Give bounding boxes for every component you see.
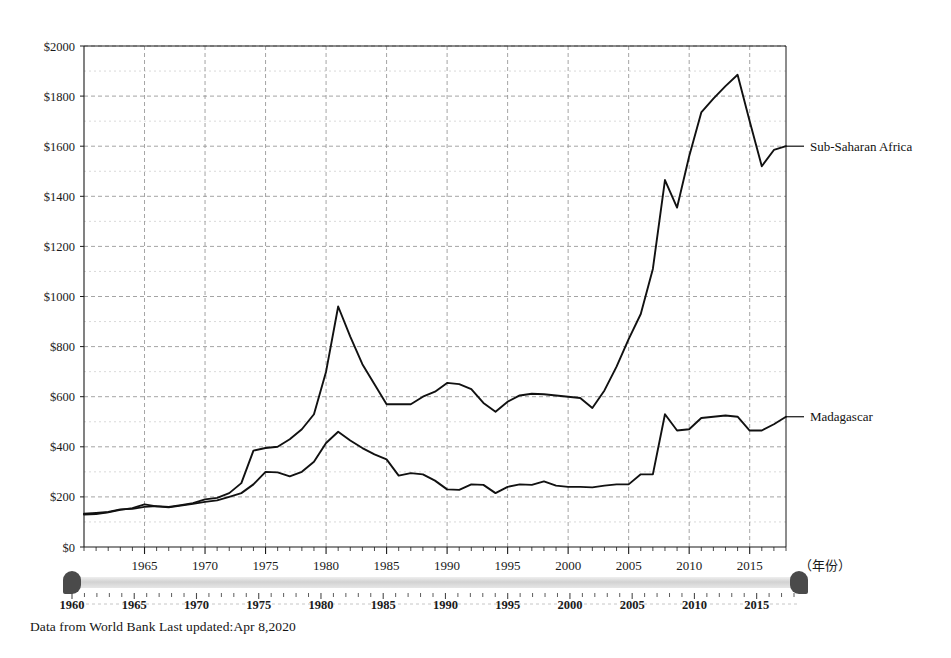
slider-tick-label: 1975 xyxy=(246,598,271,612)
y-axis-tick-label: $1200 xyxy=(44,240,75,254)
slider-tick-label: 2005 xyxy=(620,598,645,612)
time-range-end-handle[interactable] xyxy=(790,571,808,594)
slider-tick-label: 1985 xyxy=(371,598,396,612)
slider-tick-label: 1990 xyxy=(433,598,458,612)
y-axis-tick-label: $1600 xyxy=(44,140,75,154)
x-axis-tick-label: 1990 xyxy=(434,558,460,573)
line-chart: $0$200$400$600$800$1000$1200$1400$1600$1… xyxy=(0,0,951,658)
y-axis-tick-label: $1800 xyxy=(44,90,75,104)
slider-tick-label: 1965 xyxy=(122,598,147,612)
series-line-madagascar xyxy=(84,414,786,514)
x-axis-tick-label: 1980 xyxy=(313,558,339,573)
y-axis-tick-label: $0 xyxy=(63,541,76,555)
x-axis-tick-label: 1965 xyxy=(132,558,158,573)
y-axis-tick-label: $1400 xyxy=(44,190,75,204)
series-line-sub-saharan-africa xyxy=(84,75,786,514)
chart-container: $0$200$400$600$800$1000$1200$1400$1600$1… xyxy=(0,0,951,658)
y-axis-tick-label: $200 xyxy=(50,490,75,504)
x-axis-tick-label: 2015 xyxy=(737,558,763,573)
y-axis-tick-label: $400 xyxy=(50,440,75,454)
slider-tick-label: 2000 xyxy=(557,598,582,612)
slider-tick-label: 2010 xyxy=(682,598,707,612)
time-range-slider-track[interactable] xyxy=(70,577,796,588)
y-axis-tick-label: $2000 xyxy=(44,40,75,54)
series-label-madagascar: Madagascar xyxy=(810,409,873,424)
series-label-sub-saharan-africa: Sub-Saharan Africa xyxy=(810,139,912,154)
slider-tick-label: 2015 xyxy=(744,598,769,612)
slider-tick-label: 1960 xyxy=(60,598,85,612)
y-axis-tick-label: $800 xyxy=(50,340,75,354)
x-axis-tick-label: 1995 xyxy=(495,558,521,573)
data-source-note: Data from World Bank Last updated:Apr 8,… xyxy=(30,619,296,635)
slider-tick-label: 1970 xyxy=(184,598,209,612)
x-axis-tick-label: 1970 xyxy=(192,558,218,573)
x-axis-title: （年份） xyxy=(799,558,851,573)
slider-tick-label: 1980 xyxy=(308,598,333,612)
x-axis-tick-label: 2010 xyxy=(676,558,702,573)
x-axis-tick-label: 2000 xyxy=(555,558,581,573)
y-axis-tick-label: $1000 xyxy=(44,290,75,304)
slider-tick-label: 1995 xyxy=(495,598,520,612)
x-axis-tick-label: 1975 xyxy=(253,558,279,573)
y-axis-tick-label: $600 xyxy=(50,390,75,404)
time-range-start-handle[interactable] xyxy=(63,571,81,594)
x-axis-tick-label: 2005 xyxy=(616,558,642,573)
x-axis-tick-label: 1985 xyxy=(374,558,400,573)
